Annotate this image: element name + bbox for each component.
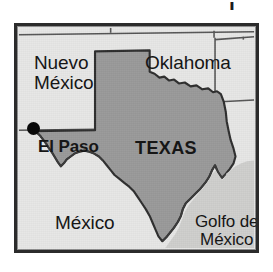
map-frame: NuevoMéxico Oklahoma TEXAS El Paso Méxic… — [14, 23, 259, 253]
map-label-el-paso: El Paso — [38, 138, 99, 156]
map-label-oklahoma: Oklahoma — [145, 53, 231, 73]
map-label-texas-line1: TEXAS — [135, 138, 197, 158]
map-label-oklahoma-line1: Oklahoma — [145, 52, 231, 73]
map-label-golfo-de-mexico-line2: México — [200, 230, 253, 249]
map-label-golfo-de-mexico: Golfo deMéxico — [195, 213, 258, 249]
map-label-nuevo-mexico-line2: México — [34, 72, 94, 93]
texas-locator-map: j — [0, 0, 273, 272]
map-label-texas: TEXAS — [135, 139, 197, 158]
map-label-nuevo-mexico-line1: Nuevo — [34, 52, 88, 73]
map-label-el-paso-line1: El Paso — [38, 137, 99, 156]
map-label-nuevo-mexico: NuevoMéxico — [34, 53, 94, 93]
el-paso-city-dot-icon — [27, 122, 40, 135]
stray-ink-fragment: j — [229, 1, 236, 10]
map-label-golfo-de-mexico-line1: Golfo de — [195, 212, 258, 231]
map-label-mexico: México — [55, 213, 115, 233]
map-label-mexico-line1: México — [55, 212, 115, 233]
